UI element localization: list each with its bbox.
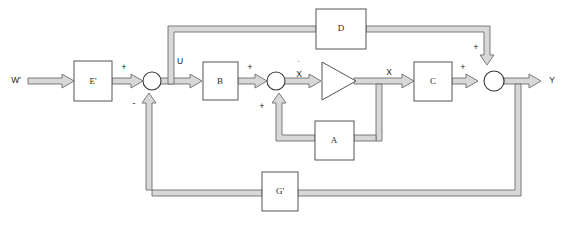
signal-label-xdot-dot: ˙ — [298, 60, 301, 70]
sign-e-to-sum1: + — [121, 62, 126, 72]
signal-label-y: Y — [549, 75, 555, 85]
wire-g-to-sum1 — [142, 93, 262, 196]
sign-c-to-sum3: + — [460, 62, 465, 72]
signal-label-w: W' — [11, 75, 21, 85]
sign-a-to-sum2: + — [259, 101, 264, 111]
wire-b-to-sum2 — [238, 74, 267, 88]
summing-junction-2 — [267, 72, 285, 90]
signal-label-u: U — [177, 56, 183, 66]
wire-c-to-sum3 — [452, 74, 478, 88]
summing-junction-1 — [143, 72, 161, 90]
wire-x-down-to-a-input — [354, 135, 376, 141]
sign-b-to-sum2: + — [247, 62, 252, 72]
block-c-label: C — [430, 76, 436, 86]
block-b-label: B — [217, 76, 223, 86]
block-g-label: G' — [276, 186, 284, 196]
signal-label-xdot: X — [296, 69, 302, 79]
block-a-label: A — [331, 135, 338, 145]
block-e-label: E' — [89, 76, 96, 86]
signal-label-x: X — [386, 67, 392, 77]
block-diagram-canvas: E' B A C D G' W' U X ˙ X Y + - + + + + — [0, 0, 564, 227]
wire-input-to-e — [28, 74, 74, 88]
wire-x-branch-down-to-a — [376, 84, 382, 141]
block-d-label: D — [338, 23, 345, 33]
integrator-triangle — [322, 62, 356, 100]
wire-sum3-to-output — [504, 74, 541, 88]
sign-d-to-sum3: + — [473, 42, 478, 52]
wire-sum1-to-b — [160, 74, 202, 88]
wire-a-to-sum2 — [272, 93, 315, 141]
wire-integrator-to-c — [354, 74, 414, 88]
sign-g-to-sum1: - — [133, 98, 136, 108]
wire-sum2-to-integrator — [284, 74, 321, 88]
summing-junction-3 — [484, 71, 504, 91]
wire-e-to-sum1 — [112, 74, 143, 88]
